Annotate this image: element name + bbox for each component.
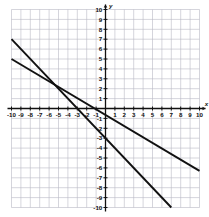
y-tick-label: 6 [99, 45, 103, 52]
y-tick-label: 3 [99, 75, 103, 82]
plot-svg: -10-9-8-7-6-5-4-3-2-11234567891010987654… [0, 0, 209, 217]
x-tick-label: -6 [46, 111, 52, 118]
x-tick-label: 8 [179, 111, 183, 118]
coordinate-plane-graph: -10-9-8-7-6-5-4-3-2-11234567891010987654… [0, 0, 209, 217]
y-tick-label: -10 [93, 204, 103, 211]
x-tick-label: -10 [7, 111, 17, 118]
y-tick-label: -5 [97, 154, 103, 161]
y-tick-label: -8 [97, 184, 103, 191]
y-tick-label: 8 [99, 26, 103, 33]
x-tick-label: 2 [123, 111, 127, 118]
x-tick-label: 3 [132, 111, 136, 118]
axes [8, 5, 206, 212]
y-tick-label: 10 [95, 6, 102, 13]
x-tick-label: -4 [65, 111, 71, 118]
y-tick-label: -9 [97, 194, 103, 201]
y-axis-arrow [104, 5, 108, 8]
y-tick-label: -6 [97, 164, 103, 171]
x-tick-label: 5 [151, 111, 155, 118]
x-tick-label: 9 [188, 111, 192, 118]
x-tick-label: -8 [28, 111, 34, 118]
x-tick-label: -9 [18, 111, 24, 118]
y-tick-label: 5 [99, 55, 103, 62]
y-tick-label: 1 [99, 95, 103, 102]
x-tick-label: -7 [37, 111, 43, 118]
x-tick-label: 10 [196, 111, 203, 118]
x-tick-label: -5 [56, 111, 62, 118]
x-tick-label: 4 [141, 111, 145, 118]
y-tick-label: 4 [99, 65, 103, 72]
x-tick-label: 6 [160, 111, 164, 118]
x-tick-label: 7 [170, 111, 174, 118]
data-line [12, 39, 172, 207]
y-tick-label: 2 [99, 85, 103, 92]
x-axis-title: x [204, 100, 209, 107]
y-tick-label: 9 [99, 16, 103, 23]
x-tick-label: 1 [113, 111, 117, 118]
y-tick-label: -1 [97, 115, 103, 122]
y-tick-label: 7 [99, 35, 103, 42]
y-axis-title: y [108, 2, 113, 9]
axis-titles: yx [108, 2, 209, 107]
y-tick-label: -4 [97, 144, 103, 151]
y-tick-label: -7 [97, 174, 103, 181]
